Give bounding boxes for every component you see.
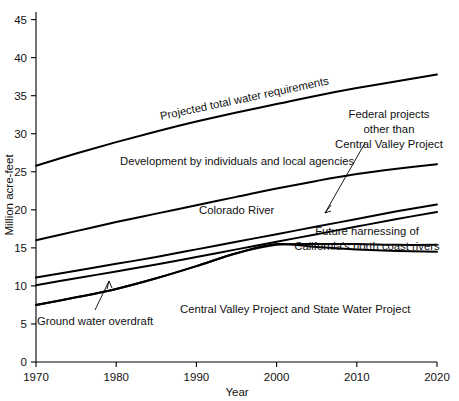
y-tick-label-40: 40 xyxy=(14,52,27,64)
chart-plot-area: 051015202530354045 197019801990200020102… xyxy=(0,0,459,401)
annotation-colorado-river: Colorado River xyxy=(199,204,275,216)
y-tick-label-25: 25 xyxy=(14,166,27,178)
annotation-federal-projects-line1: Federal projects xyxy=(349,108,430,120)
annotation-federal-projects-line3: Central Valley Project xyxy=(335,138,444,150)
x-tick-label-2010: 2010 xyxy=(344,371,370,383)
x-tick-label-2020: 2020 xyxy=(424,371,450,383)
y-tick-label-20: 20 xyxy=(14,204,27,216)
federal-projects-leader-arrow xyxy=(325,205,331,213)
ground-water-overdraft-leader-arrow xyxy=(107,281,112,289)
y-tick-label-15: 15 xyxy=(14,242,27,254)
annotation-future-harnessing-line2: California's north coast rivers xyxy=(294,240,440,252)
y-tick-label-0: 0 xyxy=(21,356,27,368)
y-tick-label-30: 30 xyxy=(14,128,27,140)
x-tick-label-1980: 1980 xyxy=(103,371,129,383)
water-requirements-chart: 051015202530354045 197019801990200020102… xyxy=(0,0,459,401)
annotation-central-valley-state-water: Central Valley Project and State Water P… xyxy=(180,303,411,315)
x-tick-label-1970: 1970 xyxy=(23,371,49,383)
y-tick-label-5: 5 xyxy=(21,318,27,330)
y-axis-title-text: Million acre-feet xyxy=(3,154,15,236)
ground-water-overdraft-leader-line xyxy=(95,281,109,310)
y-tick-label-45: 45 xyxy=(14,14,27,26)
x-axis-ticks: 197019801990200020102020 xyxy=(23,362,450,383)
annotation-ground-water-overdraft: Ground water overdraft xyxy=(37,315,154,327)
x-tick-label-1990: 1990 xyxy=(184,371,210,383)
series-line-projected-total-water-requirements xyxy=(36,74,437,165)
y-tick-label-35: 35 xyxy=(14,90,27,102)
annotation-future-harnessing-line1: Future harnessing of xyxy=(315,225,419,237)
y-axis-ticks: 051015202530354045 xyxy=(14,14,36,368)
x-tick-label-2000: 2000 xyxy=(264,371,290,383)
x-axis-title-text: Year xyxy=(225,386,248,398)
annotation-federal-projects-line2: other than xyxy=(364,123,415,135)
annotation-development-by-individuals: Development by individuals and local age… xyxy=(120,155,355,167)
y-tick-label-10: 10 xyxy=(14,280,27,292)
y-axis-title: Million acre-feet xyxy=(3,154,15,236)
